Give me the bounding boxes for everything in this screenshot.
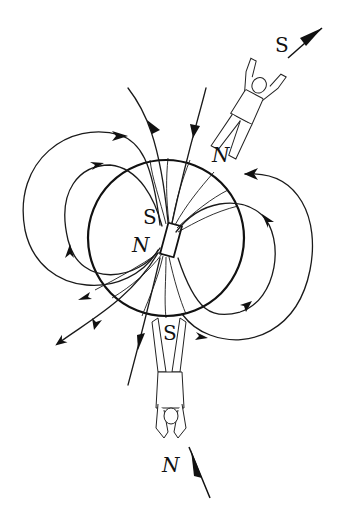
magnetic-field-diagram: S N S N S N	[0, 0, 337, 529]
right-field-loops	[176, 174, 312, 340]
bottom-person-pole-label: S	[163, 321, 177, 345]
arrow-icon	[112, 131, 128, 141]
bottom-compass-pole-label: N	[161, 453, 181, 477]
top-person-pole-label: N	[211, 143, 231, 167]
magnet-top-pole-label: S	[143, 205, 157, 229]
arrow-icon	[65, 244, 74, 258]
arrow-icon	[262, 214, 274, 228]
field-line-top-left	[128, 88, 168, 222]
top-compass-pole-label: S	[275, 33, 289, 57]
arrow-icon	[190, 124, 200, 138]
top-compass-arrow	[288, 28, 322, 58]
arrow-icon	[137, 333, 145, 350]
arrow-icon	[78, 292, 92, 300]
bottom-compass-arrow	[189, 447, 210, 498]
magnet-bottom-pole-label: N	[131, 233, 151, 257]
arrow-icon	[92, 318, 102, 330]
